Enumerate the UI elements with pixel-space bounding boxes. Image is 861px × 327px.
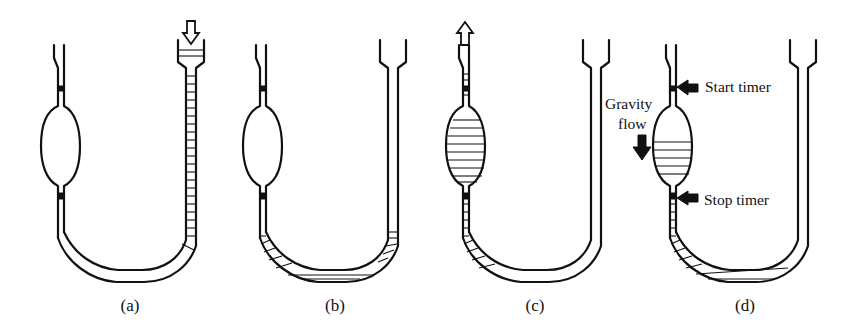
panel-label-c: (c) bbox=[526, 296, 545, 315]
gravity-flow-label-line1: Gravity bbox=[605, 95, 653, 112]
panel-label-a: (a) bbox=[121, 296, 140, 315]
panel-label-d: (d) bbox=[735, 296, 755, 315]
gravity-flow-arrow-icon bbox=[633, 135, 651, 160]
panel-c: (c) bbox=[446, 22, 609, 315]
liquid-in-bulb bbox=[447, 120, 485, 182]
liquid-in-capillary bbox=[463, 74, 495, 268]
viscometer-diagram: (a) (b) bbox=[0, 0, 861, 327]
panel-d: Start timer Stop timer Gravity flow (d) bbox=[605, 40, 816, 315]
arrow-down-icon bbox=[183, 21, 199, 44]
liquid-in-bulb-partial bbox=[654, 142, 692, 174]
stop-timer-arrow-icon bbox=[677, 191, 698, 205]
panel-label-b: (b) bbox=[325, 296, 345, 315]
gravity-flow-label-line2: flow bbox=[618, 115, 647, 132]
stop-timer-label: Stop timer bbox=[704, 191, 770, 208]
start-timer-arrow-icon bbox=[677, 80, 698, 95]
liquid-right-arm bbox=[178, 50, 204, 250]
arrow-up-icon bbox=[457, 22, 473, 45]
start-timer-label: Start timer bbox=[705, 78, 772, 95]
panel-a: (a) bbox=[41, 21, 204, 315]
panel-b: (b) bbox=[243, 40, 406, 315]
